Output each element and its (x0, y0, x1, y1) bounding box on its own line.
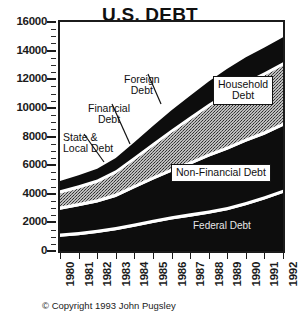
annotation-foreign-debt: Foreign Debt (124, 74, 160, 96)
y-minor-tick-mark (51, 215, 56, 216)
annotation-financial-debt-line2: Debt (88, 114, 130, 125)
y-axis: 0200040006000800010000120001400016000 (0, 0, 58, 273)
y-minor-tick-mark (51, 58, 56, 59)
y-minor-tick-mark (51, 43, 56, 44)
y-tick-label: 2000 (23, 217, 47, 229)
y-minor-tick-mark (51, 237, 56, 238)
y-minor-tick-mark (51, 158, 56, 159)
y-tick-mark (47, 50, 56, 52)
y-tick-label: 8000 (23, 131, 47, 143)
y-tick-mark (47, 193, 56, 195)
y-tick-mark (47, 250, 56, 252)
chart-figure: U.S. DEBT (Billions of Dollars) 02000400… (0, 0, 300, 321)
x-tick-label: 1991 (268, 262, 280, 286)
y-minor-tick-mark (51, 144, 56, 145)
y-tick-label: 12000 (17, 74, 47, 86)
y-minor-tick-mark (51, 72, 56, 73)
y-minor-tick-mark (51, 29, 56, 30)
annotation-foreign-debt-line2: Debt (124, 85, 160, 96)
x-tick-label: 1992 (287, 262, 299, 286)
y-minor-tick-mark (51, 94, 56, 95)
x-tick-label: 1988 (213, 262, 225, 286)
y-minor-tick-mark (51, 129, 56, 130)
x-tick-mark (79, 253, 80, 259)
y-tick-mark (47, 136, 56, 138)
annotation-household-debt: Household Debt (213, 76, 273, 105)
y-tick-label: 16000 (17, 16, 47, 28)
x-tick-mark (172, 253, 173, 259)
x-tick-mark (264, 253, 265, 259)
y-minor-tick-mark (51, 201, 56, 202)
y-tick-label: 10000 (17, 102, 47, 114)
annotation-state-local-debt-line2: Local Debt (63, 143, 113, 154)
x-tick-label: 1989 (231, 262, 243, 286)
y-tick-label: 6000 (23, 159, 47, 171)
x-tick-label: 1980 (64, 262, 76, 286)
y-minor-tick-mark (51, 115, 56, 116)
y-minor-tick-mark (51, 86, 56, 87)
x-tick-mark (97, 253, 98, 259)
annotation-federal-debt: Federal Debt (193, 221, 251, 232)
y-minor-tick-mark (51, 179, 56, 180)
x-tick-mark (60, 253, 61, 259)
x-tick-label: 1983 (120, 262, 132, 286)
y-minor-tick-mark (51, 244, 56, 245)
annotation-household-debt-line2: Debt (218, 90, 268, 101)
x-tick-mark (153, 253, 154, 259)
y-minor-tick-mark (51, 230, 56, 231)
x-tick-mark (227, 253, 228, 259)
x-tick-label: 1981 (83, 262, 95, 286)
y-minor-tick-mark (51, 208, 56, 209)
x-tick-mark (190, 253, 191, 259)
x-tick-label: 1982 (101, 262, 113, 286)
y-tick-mark (47, 78, 56, 80)
y-tick-label: 14000 (17, 45, 47, 57)
annotation-state-local-debt: State & Local Debt (63, 132, 113, 154)
x-tick-label: 1985 (157, 262, 169, 286)
y-minor-tick-mark (51, 36, 56, 37)
y-tick-mark (47, 21, 56, 23)
x-tick-mark (283, 253, 284, 259)
y-minor-tick-mark (51, 101, 56, 102)
y-tick-label: 4000 (23, 188, 47, 200)
y-minor-tick-mark (51, 172, 56, 173)
y-minor-tick-mark (51, 65, 56, 66)
y-tick-mark (47, 107, 56, 109)
x-tick-mark (116, 253, 117, 259)
x-tick-label: 1987 (194, 262, 206, 286)
x-tick-mark (134, 253, 135, 259)
y-tick-mark (47, 164, 56, 166)
annotation-non-financial-debt: Non-Financial Debt (171, 164, 271, 182)
x-tick-label: 1984 (138, 262, 150, 286)
y-minor-tick-mark (51, 187, 56, 188)
x-tick-mark (246, 253, 247, 259)
annotation-financial-debt: Financial Debt (88, 103, 130, 125)
x-tick-label: 1986 (176, 262, 188, 286)
y-tick-mark (47, 221, 56, 223)
x-tick-label: 1990 (250, 262, 262, 286)
copyright-notice: © Copyright 1993 John Pugsley (42, 300, 176, 311)
x-tick-mark (209, 253, 210, 259)
y-minor-tick-mark (51, 151, 56, 152)
y-minor-tick-mark (51, 122, 56, 123)
